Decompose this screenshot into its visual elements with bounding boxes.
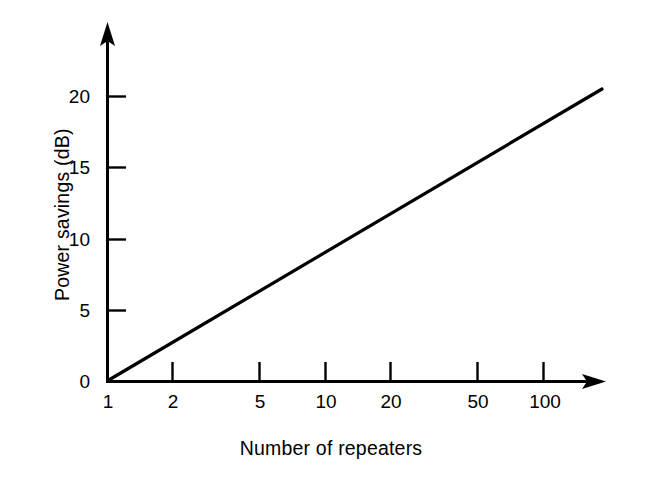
x-tick-label-20: 20 — [380, 392, 401, 411]
y-tick-label-0: 0 — [54, 372, 90, 391]
data-series-line — [108, 89, 602, 381]
x-tick-label-1: 1 — [103, 392, 114, 411]
y-axis-title: Power savings (dB) — [51, 128, 74, 301]
y-tick-marks — [108, 97, 126, 311]
y-tick-label-20: 20 — [54, 87, 90, 106]
x-tick-marks — [173, 362, 544, 380]
x-tick-label-2: 2 — [168, 392, 179, 411]
x-tick-label-10: 10 — [315, 392, 336, 411]
x-tick-label-5: 5 — [255, 392, 266, 411]
x-tick-label-100: 100 — [529, 392, 561, 411]
x-tick-label-50: 50 — [467, 392, 488, 411]
x-axis-title: Number of repeaters — [240, 437, 423, 460]
chart-figure: 20 15 10 5 0 1 2 5 10 20 50 100 Power sa… — [0, 0, 649, 483]
y-tick-label-5: 5 — [54, 301, 90, 320]
